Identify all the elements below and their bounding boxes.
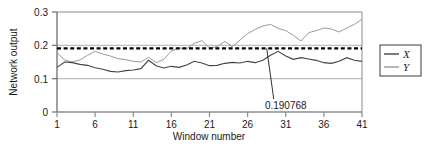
x-tick-label-16: 16: [166, 119, 178, 130]
y-axis-title: Network output: [8, 28, 19, 95]
x-tick-label-6: 6: [92, 119, 98, 130]
x-tick-label-36: 36: [318, 119, 330, 130]
x-axis-title: Window number: [173, 131, 246, 142]
legend: X Y: [380, 45, 421, 76]
chart-background: [0, 0, 437, 146]
x-tick-label-21: 21: [204, 119, 216, 130]
x-tick-label-1: 1: [54, 119, 60, 130]
y-tick-label-0-3: 0.3: [34, 7, 48, 18]
annotation-value-label: 0.190768: [265, 100, 307, 111]
x-tick-label-31: 31: [280, 119, 292, 130]
x-tick-label-41: 41: [356, 119, 368, 130]
x-tick-label-11: 11: [128, 119, 139, 130]
chart-figure: 0.3 0.2 0.1 0 Network output 16111621263…: [0, 0, 437, 146]
legend-box: [380, 45, 421, 76]
y-tick-label-0-1: 0.1: [34, 74, 48, 85]
network-output-line-chart: 0.3 0.2 0.1 0 Network output 16111621263…: [0, 0, 437, 146]
y-tick-label-0: 0: [42, 107, 48, 118]
x-tick-label-26: 26: [242, 119, 254, 130]
y-tick-label-0-2: 0.2: [34, 40, 48, 51]
legend-label-x: X: [402, 48, 411, 60]
